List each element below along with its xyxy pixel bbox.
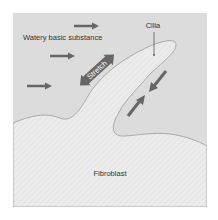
fibroblast-label: Fibroblast <box>94 169 128 178</box>
medium-label: Watery basic substance <box>23 33 102 42</box>
diagram: Stretch Watery basic substance Cilia Fib… <box>0 0 218 220</box>
leader-dot-icon <box>153 54 155 56</box>
cilia-label: Cilia <box>146 21 161 30</box>
